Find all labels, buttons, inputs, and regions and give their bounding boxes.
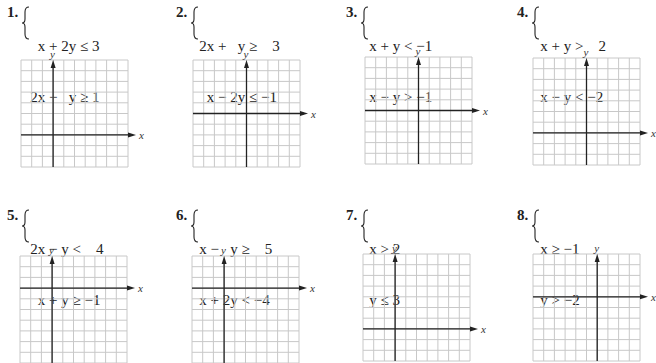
- y-axis-label: y: [220, 244, 226, 256]
- arrow-right-icon: [300, 111, 308, 116]
- arrow-up-icon: [51, 60, 56, 68]
- x-axis-label: x: [650, 291, 656, 303]
- grid-svg: xy: [193, 60, 316, 167]
- coordinate-grid[interactable]: xy: [192, 256, 315, 363]
- arrow-up-icon: [222, 256, 227, 264]
- y-axis-label: y: [391, 242, 397, 254]
- arrow-right-icon: [472, 108, 480, 113]
- x-axis-label: x: [482, 105, 488, 117]
- arrow-up-icon: [584, 58, 589, 66]
- arrow-right-icon: [299, 286, 307, 291]
- coordinate-grid[interactable]: xy: [533, 58, 656, 165]
- coordinate-grid[interactable]: xy: [365, 57, 488, 164]
- arrow-right-icon: [640, 130, 648, 135]
- y-axis-label: y: [48, 244, 54, 256]
- problem-number: 3.: [346, 4, 357, 21]
- arrow-up-icon: [393, 254, 398, 262]
- problem-number: 1.: [7, 4, 18, 21]
- grid-svg: xy: [192, 256, 315, 363]
- arrow-up-icon: [416, 57, 421, 65]
- grid-svg: xy: [20, 256, 143, 363]
- arrow-right-icon: [640, 294, 648, 299]
- grid-svg: xy: [21, 60, 144, 167]
- x-axis-label: x: [310, 108, 316, 120]
- problem-number: 8.: [517, 207, 528, 224]
- x-axis-label: x: [309, 282, 315, 294]
- arrow-up-icon: [50, 256, 55, 264]
- x-axis-label: x: [138, 129, 144, 141]
- problem-number: 6.: [176, 207, 187, 224]
- coordinate-grid[interactable]: xy: [533, 254, 656, 361]
- grid-svg: xy: [533, 254, 656, 361]
- arrow-right-icon: [127, 286, 135, 291]
- problem-number: 7.: [346, 207, 357, 224]
- arrow-up-icon: [244, 60, 249, 68]
- problem-number: 5.: [7, 207, 18, 224]
- arrow-right-icon: [128, 132, 136, 137]
- y-axis-label: y: [583, 46, 589, 58]
- problem-number: 4.: [517, 4, 528, 21]
- inequality: x + y > 2: [540, 38, 606, 55]
- coordinate-grid[interactable]: xy: [20, 256, 143, 363]
- coordinate-grid[interactable]: xy: [21, 60, 144, 167]
- problem-number: 2.: [176, 4, 187, 21]
- arrow-right-icon: [470, 326, 478, 331]
- x-axis-label: x: [650, 127, 656, 139]
- inequality: x + y < −1: [369, 38, 432, 55]
- inequality: x + 2y ≤ 3: [30, 38, 99, 55]
- grid-svg: xy: [533, 58, 656, 165]
- y-axis-label: y: [49, 48, 55, 60]
- x-axis-label: x: [480, 323, 486, 335]
- inequality: 2x + y ≥ 3: [199, 38, 279, 55]
- grid-svg: xy: [365, 57, 488, 164]
- arrow-up-icon: [595, 254, 600, 262]
- y-axis-label: y: [415, 45, 421, 57]
- y-axis-label: y: [593, 242, 599, 254]
- coordinate-grid[interactable]: xy: [363, 254, 486, 361]
- y-axis-label: y: [243, 48, 249, 60]
- coordinate-grid[interactable]: xy: [193, 60, 316, 167]
- grid-svg: xy: [363, 254, 486, 361]
- x-axis-label: x: [137, 282, 143, 294]
